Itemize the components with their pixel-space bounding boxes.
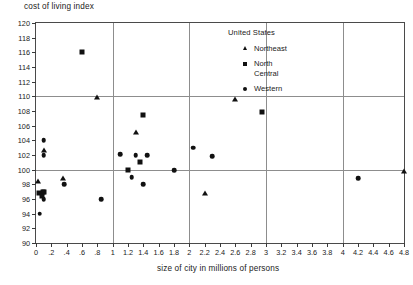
x-axis-tick-label: .8 <box>94 248 100 257</box>
legend-item: Northeast <box>228 44 324 53</box>
gridline-vertical <box>113 23 114 243</box>
x-axis-tick <box>36 243 37 247</box>
x-axis-tick <box>312 243 313 247</box>
data-point <box>41 153 46 158</box>
x-axis-tick <box>281 243 282 247</box>
x-axis-tick-label: 2.2 <box>200 248 210 257</box>
y-axis-tick <box>32 199 36 200</box>
x-axis-tick-label: 4.4 <box>368 248 378 257</box>
x-axis-tick <box>220 243 221 247</box>
data-point <box>202 190 208 195</box>
y-axis-tick <box>32 82 36 83</box>
y-axis-tick <box>32 96 36 97</box>
y-axis-tick <box>32 155 36 156</box>
legend-item-label: North Central <box>254 59 278 78</box>
legend-rows: NortheastNorth CentralWestern <box>228 44 324 94</box>
gridline-horizontal <box>36 170 404 171</box>
y-axis-tick <box>32 23 36 24</box>
x-axis-tick <box>159 243 160 247</box>
data-point <box>80 50 85 55</box>
y-axis-tick <box>32 214 36 215</box>
x-axis-tick-label: 1.8 <box>169 248 179 257</box>
y-axis-tick-label: 116 <box>18 48 30 57</box>
legend-item-label: Western <box>254 84 282 93</box>
x-axis-tick <box>51 243 52 247</box>
x-axis-tick-label: 2 <box>187 248 191 257</box>
x-axis-tick <box>205 243 206 247</box>
data-point <box>133 129 139 134</box>
x-axis-tick <box>67 243 68 247</box>
data-point <box>130 175 135 180</box>
x-axis-tick <box>404 243 405 247</box>
data-point <box>133 153 138 158</box>
y-axis-tick-label: 120 <box>18 19 30 28</box>
x-axis-tick-label: 4.8 <box>399 248 409 257</box>
y-axis-tick-label: 108 <box>18 107 30 116</box>
legend: United States NortheastNorth CentralWest… <box>228 29 324 100</box>
x-axis-tick-label: 1.4 <box>138 248 148 257</box>
x-axis-tick-label: 4 <box>341 248 345 257</box>
y-axis-tick <box>32 111 36 112</box>
y-axis-tick <box>32 228 36 229</box>
x-axis-tick <box>82 243 83 247</box>
data-point <box>145 153 150 158</box>
x-axis-tick <box>373 243 374 247</box>
y-axis-tick-label: 94 <box>22 209 30 218</box>
x-axis-tick <box>174 243 175 247</box>
y-axis-tick-label: 98 <box>22 180 30 189</box>
y-axis-tick <box>32 126 36 127</box>
x-axis-tick <box>113 243 114 247</box>
y-axis-tick-label: 104 <box>18 136 30 145</box>
data-point <box>35 178 41 183</box>
data-point <box>137 160 142 165</box>
x-axis-tick-label: 3.2 <box>276 248 286 257</box>
y-axis-tick-label: 100 <box>18 165 30 174</box>
x-axis-tick-label: 4.6 <box>384 248 394 257</box>
y-axis-tick-label: 106 <box>18 121 30 130</box>
data-point <box>141 182 146 187</box>
data-point <box>41 138 46 143</box>
data-point <box>62 182 67 187</box>
x-axis-tick-label: 3.8 <box>322 248 332 257</box>
scatter-chart: cost of living index 9092949698100102104… <box>0 0 413 285</box>
x-axis-tick-label: .2 <box>48 248 54 257</box>
y-axis-tick <box>32 38 36 39</box>
data-point <box>94 95 100 100</box>
data-point <box>356 176 361 181</box>
y-axis-tick-label: 112 <box>18 77 30 86</box>
y-axis-tick-label: 96 <box>22 195 30 204</box>
x-axis-tick-label: 2.6 <box>230 248 240 257</box>
x-axis-tick-label: 4.2 <box>353 248 363 257</box>
x-axis-tick-label: 1.2 <box>123 248 133 257</box>
x-axis-title: size of city in millions of persons <box>157 264 279 273</box>
data-point <box>118 152 123 157</box>
y-axis-title: cost of living index <box>24 2 94 11</box>
data-point <box>126 167 131 172</box>
x-axis-tick-label: 3.6 <box>307 248 317 257</box>
y-axis-tick <box>32 184 36 185</box>
x-axis-tick <box>343 243 344 247</box>
x-axis-tick <box>143 243 144 247</box>
data-point <box>172 168 177 173</box>
y-axis-tick-label: 92 <box>22 224 30 233</box>
data-point <box>38 211 43 216</box>
y-axis-tick <box>32 140 36 141</box>
x-axis-tick-label: .6 <box>79 248 85 257</box>
y-axis-tick <box>32 170 36 171</box>
x-axis-tick <box>389 243 390 247</box>
x-axis-tick-label: 3.4 <box>292 248 302 257</box>
square-marker-icon <box>240 59 250 68</box>
data-point <box>210 154 215 159</box>
data-point <box>191 145 196 150</box>
y-axis-tick-label: 114 <box>18 63 30 72</box>
legend-item: North Central <box>228 59 324 78</box>
x-axis-tick-label: 3 <box>264 248 268 257</box>
x-axis-tick-label: 2.4 <box>215 248 225 257</box>
x-axis-tick <box>189 243 190 247</box>
x-axis-tick <box>266 243 267 247</box>
x-axis-tick-label: 1 <box>111 248 115 257</box>
x-axis-tick-label: 2.8 <box>246 248 256 257</box>
x-axis-tick <box>97 243 98 247</box>
y-axis-tick-label: 110 <box>18 92 30 101</box>
x-axis-tick <box>235 243 236 247</box>
